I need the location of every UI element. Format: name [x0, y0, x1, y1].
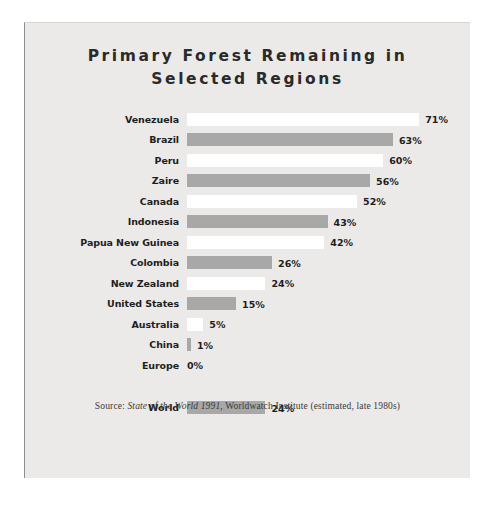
bar-row-label: United States: [25, 298, 187, 309]
bar-value-label: 42%: [330, 237, 353, 248]
bar-fill: [187, 338, 191, 351]
bar-fill: [187, 154, 383, 167]
bar-track: 0%: [187, 359, 470, 372]
bar-row-label: Zaire: [25, 175, 187, 186]
bar-track: 56%: [187, 174, 470, 187]
bar-track: 71%: [187, 113, 470, 126]
bar-value-label: 60%: [389, 155, 412, 166]
table-row: Venezuela71%: [25, 109, 470, 130]
bar-value-label: 63%: [399, 134, 422, 145]
bar-value-label: 26%: [278, 257, 301, 268]
source-note: Source: State of the World 1991, Worldwa…: [25, 401, 470, 411]
bar-value-label: 24%: [271, 278, 294, 289]
bar-fill: [187, 277, 265, 290]
bar-value-label: 56%: [376, 175, 399, 186]
bar-value-label: 5%: [209, 319, 225, 330]
bar-fill: [187, 318, 203, 331]
bar-fill: [187, 256, 272, 269]
bar-fill: [187, 297, 236, 310]
bar-value-label: 1%: [197, 339, 213, 350]
bar-track: 24%: [187, 277, 470, 290]
bar-row-label: Indonesia: [25, 216, 187, 227]
bar-row-label: Venezuela: [25, 114, 187, 125]
table-row: Indonesia43%: [25, 212, 470, 233]
source-publication: State of the World 1991: [127, 401, 220, 411]
bar-value-label: 52%: [363, 196, 386, 207]
bar-value-label: 43%: [334, 216, 357, 227]
bar-track: 1%: [187, 338, 470, 351]
table-row: Europe0%: [25, 355, 470, 376]
bar-row-label: Europe: [25, 360, 187, 371]
bar-track: 63%: [187, 133, 470, 146]
source-suffix: , Worldwatch Institute (estimated, late …: [220, 401, 400, 411]
bar-track: 5%: [187, 318, 470, 331]
table-row: Papua New Guinea42%: [25, 232, 470, 253]
bar-row-label: China: [25, 339, 187, 350]
bar-row-label: Australia: [25, 319, 187, 330]
bar-row-label: Peru: [25, 155, 187, 166]
bar-fill: [187, 215, 328, 228]
table-row: Colombia26%: [25, 253, 470, 274]
bar-track: 26%: [187, 256, 470, 269]
bar-rows-group: Venezuela71%Brazil63%Peru60%Zaire56%Cana…: [25, 109, 470, 376]
bar-row-label: Canada: [25, 196, 187, 207]
bar-track: 15%: [187, 297, 470, 310]
bar-row-label: Brazil: [25, 134, 187, 145]
table-row: Brazil63%: [25, 130, 470, 151]
bar-track: 43%: [187, 215, 470, 228]
bar-value-label: 0%: [187, 360, 203, 371]
table-row: Canada52%: [25, 191, 470, 212]
bar-track: 42%: [187, 236, 470, 249]
table-row: China1%: [25, 335, 470, 356]
bar-value-label: 71%: [425, 114, 448, 125]
bar-fill: [187, 174, 370, 187]
chart-title: Primary Forest Remaining in Selected Reg…: [25, 23, 470, 92]
table-row: Australia5%: [25, 314, 470, 335]
table-row: Zaire56%: [25, 171, 470, 192]
source-prefix: Source:: [95, 401, 128, 411]
bar-fill: [187, 195, 357, 208]
bar-fill: [187, 133, 393, 146]
table-row: Peru60%: [25, 150, 470, 171]
bar-fill: [187, 113, 419, 126]
bar-value-label: 15%: [242, 298, 265, 309]
chart-title-line-2: Selected Regions: [151, 70, 343, 88]
chart-title-line-1: Primary Forest Remaining in: [88, 47, 408, 65]
bar-track: 60%: [187, 154, 470, 167]
bar-track: 52%: [187, 195, 470, 208]
bar-row-label: Colombia: [25, 257, 187, 268]
table-row: United States15%: [25, 294, 470, 315]
bar-chart-plot-area: Venezuela71%Brazil63%Peru60%Zaire56%Cana…: [25, 109, 470, 418]
bar-row-label: Papua New Guinea: [25, 237, 187, 248]
bar-fill: [187, 236, 324, 249]
chart-card: Primary Forest Remaining in Selected Reg…: [24, 22, 470, 478]
bar-row-label: New Zealand: [25, 278, 187, 289]
table-row: New Zealand24%: [25, 273, 470, 294]
